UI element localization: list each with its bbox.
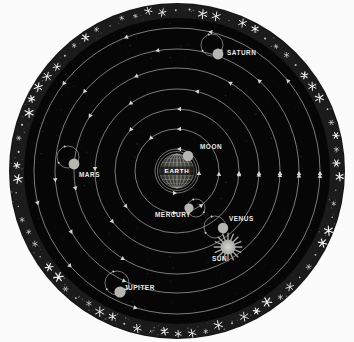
field-speckle	[269, 89, 270, 90]
field-speckle	[275, 65, 276, 66]
field-speckle	[119, 275, 120, 276]
field-speckle	[93, 265, 94, 266]
field-speckle	[107, 274, 108, 275]
star-dot	[82, 299, 83, 300]
field-speckle	[179, 93, 180, 94]
star-dot	[60, 57, 61, 58]
field-speckle	[208, 259, 209, 260]
field-speckle	[60, 249, 61, 250]
field-speckle	[323, 189, 324, 190]
star-dot	[42, 76, 43, 77]
star-dot	[273, 37, 274, 38]
star-dot	[42, 80, 43, 81]
field-speckle	[155, 265, 156, 266]
field-speckle	[65, 74, 66, 75]
field-speckle	[293, 85, 294, 86]
field-speckle	[100, 139, 101, 140]
field-speckle	[68, 90, 69, 91]
field-speckle	[134, 88, 135, 89]
field-speckle	[219, 117, 220, 118]
star-dot	[327, 223, 328, 224]
star-dot	[334, 223, 335, 224]
field-speckle	[73, 86, 74, 87]
star-dot	[40, 249, 41, 250]
field-speckle	[267, 262, 268, 263]
field-speckle	[123, 220, 124, 221]
field-speckle	[262, 153, 263, 154]
star-dot	[339, 148, 340, 149]
field-speckle	[137, 143, 138, 144]
star-dot	[140, 15, 141, 16]
star-dot	[224, 329, 225, 330]
star-dot	[213, 17, 214, 18]
field-speckle	[118, 122, 119, 123]
field-speckle	[101, 232, 102, 233]
body-moon[interactable]	[183, 151, 193, 161]
star-dot	[96, 38, 97, 39]
field-speckle	[58, 158, 59, 159]
field-speckle	[93, 281, 94, 282]
field-speckle	[127, 98, 128, 99]
field-speckle	[119, 263, 120, 264]
star-dot	[79, 42, 80, 43]
star-dot	[84, 301, 85, 302]
star-dot	[71, 41, 72, 42]
field-speckle	[232, 306, 233, 307]
field-speckle	[271, 138, 272, 139]
field-speckle	[180, 45, 181, 46]
star-dot	[22, 116, 23, 117]
star-dot	[37, 256, 38, 257]
field-speckle	[167, 81, 168, 82]
star-dot	[20, 184, 21, 185]
field-speckle	[181, 122, 182, 123]
field-speckle	[184, 57, 185, 58]
label-moon: MOON	[200, 143, 222, 150]
field-speckle	[152, 134, 153, 135]
field-speckle	[87, 246, 88, 247]
star-dot	[49, 264, 50, 265]
field-speckle	[170, 79, 171, 80]
field-speckle	[124, 46, 125, 47]
field-speckle	[80, 140, 81, 141]
field-speckle	[284, 80, 285, 81]
field-speckle	[249, 278, 250, 279]
field-speckle	[257, 74, 258, 75]
field-speckle	[94, 278, 95, 279]
star-dot	[11, 191, 13, 193]
field-speckle	[70, 109, 71, 110]
star-dot	[151, 332, 152, 333]
star-dot	[153, 327, 154, 328]
star-dot	[14, 196, 15, 197]
epicycle-marker	[211, 216, 213, 218]
field-speckle	[121, 237, 122, 238]
star-dot	[118, 23, 119, 24]
star-dot	[325, 235, 326, 236]
field-speckle	[276, 131, 277, 132]
field-speckle	[255, 269, 256, 270]
star-dot	[269, 301, 270, 302]
field-speckle	[203, 214, 204, 215]
field-speckle	[310, 230, 311, 231]
field-speckle	[194, 138, 195, 139]
field-speckle	[297, 177, 298, 178]
star-dot	[193, 10, 194, 11]
field-speckle	[109, 233, 110, 234]
field-speckle	[259, 90, 260, 91]
field-speckle	[74, 90, 75, 91]
star-dot	[117, 313, 118, 314]
field-speckle	[139, 196, 140, 197]
field-speckle	[321, 138, 322, 139]
star-dot	[342, 175, 343, 176]
field-speckle	[310, 184, 311, 185]
field-speckle	[315, 175, 316, 176]
body-venus[interactable]	[218, 223, 228, 233]
field-speckle	[167, 228, 168, 229]
field-speckle	[128, 52, 129, 53]
body-mars[interactable]	[69, 159, 80, 170]
field-speckle	[172, 267, 173, 268]
star-dot	[123, 323, 125, 325]
star-dot	[105, 318, 106, 319]
field-speckle	[296, 190, 297, 191]
field-speckle	[49, 234, 50, 235]
body-saturn[interactable]	[213, 49, 224, 60]
